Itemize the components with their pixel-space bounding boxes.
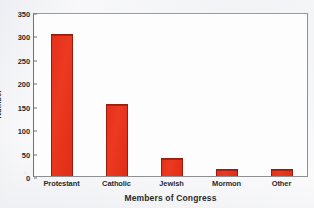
y-axis-tick-label: 300 [18, 33, 34, 42]
bar-other [271, 169, 293, 176]
y-axis-tick-mark [34, 107, 37, 108]
x-axis-tick-label: Mormon [212, 179, 241, 188]
y-axis-tick-mark [34, 37, 37, 38]
x-axis-tick-label: Protestant [43, 179, 79, 188]
x-axis-title: Members of Congress [33, 193, 308, 203]
y-axis-tick-mark [34, 131, 37, 132]
y-axis-tick-mark [34, 84, 37, 85]
x-axis-tick-label: Catholic [102, 179, 131, 188]
x-axis-tick-label: Other [272, 179, 292, 188]
x-axis-tick-label: Jewish [159, 179, 183, 188]
y-axis-title: Number [0, 72, 3, 136]
bar-chart-figure: Number 050100150200250300350ProtestantCa… [0, 0, 314, 208]
y-axis-tick-mark [34, 178, 37, 179]
y-axis-tick-label: 150 [18, 103, 34, 112]
y-axis-tick-label: 200 [18, 80, 34, 89]
y-axis-tick-label: 100 [18, 127, 34, 136]
y-axis-tick-label: 50 [22, 150, 34, 159]
plot-inner: 050100150200250300350ProtestantCatholicJ… [34, 14, 307, 176]
y-axis-tick-label: 350 [18, 10, 34, 19]
plot-area: 050100150200250300350ProtestantCatholicJ… [33, 13, 308, 177]
bar-protestant [51, 34, 73, 176]
bar-jewish [161, 158, 183, 176]
y-axis-tick-label: 0 [26, 174, 34, 183]
y-axis-tick-label: 250 [18, 56, 34, 65]
bar-catholic [106, 104, 128, 176]
y-axis-tick-mark [34, 60, 37, 61]
y-axis-tick-mark [34, 154, 37, 155]
bar-mormon [216, 169, 238, 176]
y-axis-tick-mark [34, 14, 37, 15]
